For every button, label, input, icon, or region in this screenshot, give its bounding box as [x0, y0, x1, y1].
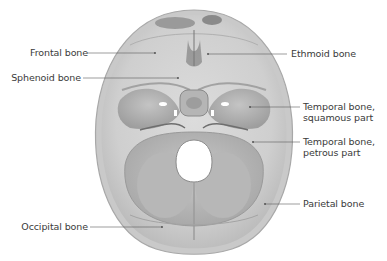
label-temporal-squamous-line2: squamous part [303, 112, 375, 123]
label-ethmoid-bone: Ethmoid bone [291, 48, 356, 59]
label-temporal-petrous-line1: Temporal bone, [303, 136, 375, 147]
foramen-magnum [176, 140, 212, 182]
label-parietal-bone: Parietal bone [303, 198, 364, 209]
cranial-base-diagram: Frontal bone Sphenoid bone Occipital bon… [0, 0, 387, 261]
label-occipital-bone: Occipital bone [10, 221, 88, 232]
frontal-sinus-left [155, 17, 195, 29]
frontal-sinus-right [202, 15, 222, 25]
label-temporal-squamous: Temporal bone, squamous part [303, 101, 375, 123]
label-temporal-squamous-line1: Temporal bone, [303, 101, 375, 112]
label-temporal-petrous: Temporal bone, petrous part [303, 136, 375, 158]
label-sphenoid-bone: Sphenoid bone [10, 72, 81, 83]
label-temporal-petrous-line2: petrous part [303, 147, 375, 158]
label-frontal-bone: Frontal bone [30, 47, 85, 58]
